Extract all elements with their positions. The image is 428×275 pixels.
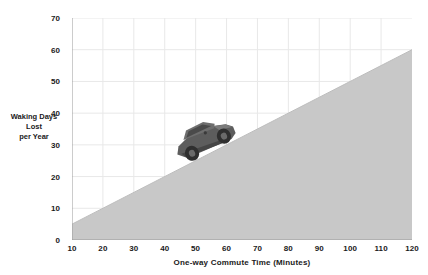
x-axis-tick-40: 40 — [160, 244, 169, 253]
y-axis-tick-0: 0 — [55, 236, 60, 245]
x-axis-tick-50: 50 — [191, 244, 200, 253]
x-axis-tick-30: 30 — [129, 244, 138, 253]
x-axis-tick-20: 20 — [98, 244, 107, 253]
commute-time-area-chart: 70 60 50 40 30 20 10 0 Waking Days Lost … — [0, 0, 428, 275]
y-axis-title-line-1: Waking Days — [2, 112, 66, 122]
y-axis-title: Waking Days Lost per Year — [2, 112, 66, 142]
y-axis-tick-20: 20 — [51, 172, 60, 181]
y-axis-tick-10: 10 — [51, 204, 60, 213]
x-axis-tick-90: 90 — [315, 244, 324, 253]
y-axis-title-line-3: per Year — [2, 132, 66, 142]
x-axis-tick-100: 100 — [343, 244, 357, 253]
x-axis-tick-120: 120 — [405, 244, 419, 253]
x-axis-tick-80: 80 — [284, 244, 293, 253]
y-axis-tick-50: 50 — [51, 77, 60, 86]
x-axis-tick-10: 10 — [67, 244, 76, 253]
y-axis-title-line-2: Lost — [2, 122, 66, 132]
x-axis-title: One-way Commute Time (Minutes) — [72, 258, 412, 267]
plot-graphics — [72, 18, 412, 240]
x-axis-tick-60: 60 — [222, 244, 231, 253]
plot-area — [72, 18, 412, 240]
y-axis-tick-70: 70 — [51, 14, 60, 23]
x-axis-tick-110: 110 — [374, 244, 387, 253]
x-axis-tick-labels: 10 20 30 40 50 60 70 80 90 100 110 120 — [72, 244, 412, 258]
y-axis-tick-60: 60 — [51, 45, 60, 54]
x-axis-tick-70: 70 — [253, 244, 262, 253]
